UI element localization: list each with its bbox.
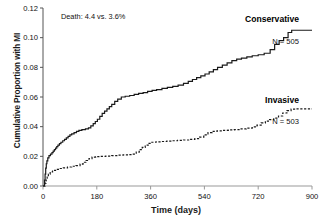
y-tick-label: 0.12 (23, 4, 38, 13)
y-tick-label: 0.06 (23, 93, 38, 102)
y-axis-title: Cumulative Proportion with MI (13, 16, 22, 166)
y-tick-label: 0.00 (23, 182, 38, 191)
y-tick-label: 0.02 (23, 152, 38, 161)
series-line-conservative (43, 30, 312, 186)
series-group (43, 30, 312, 186)
x-tick-label: 900 (306, 192, 319, 201)
chart-figure: Cumulative Proportion with MI Time (days… (0, 0, 323, 224)
x-tick-label: 360 (144, 192, 157, 201)
x-tick-label: 720 (252, 192, 265, 201)
series-n-invasive: N = 503 (272, 117, 299, 126)
y-tick-label: 0.04 (23, 122, 38, 131)
plot-area: 0.000.020.040.060.080.100.12 01803605407… (0, 0, 323, 224)
y-tick-label: 0.08 (23, 63, 38, 72)
series-label-invasive: Invasive (265, 95, 299, 105)
x-tick-label: 0 (41, 192, 45, 201)
x-tick-label: 540 (198, 192, 211, 201)
series-label-conservative: Conservative (245, 14, 299, 24)
x-tick-group: 0180360540720900 (41, 186, 318, 201)
x-tick-label: 180 (90, 192, 103, 201)
series-n-conservative: N = 505 (272, 37, 299, 46)
x-axis-title: Time (days) (40, 205, 312, 215)
death-annotation: Death: 4.4 vs. 3.6% (61, 12, 126, 21)
y-tick-label: 0.10 (23, 33, 38, 42)
y-tick-group: 0.000.020.040.060.080.100.12 (23, 4, 43, 191)
